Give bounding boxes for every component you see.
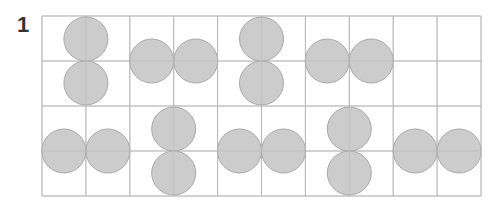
circle-grid-diagram [0, 0, 496, 208]
